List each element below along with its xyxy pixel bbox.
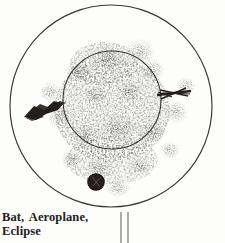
- inkblot-plate: [0, 0, 225, 243]
- figure-caption: Bat, Aeroplane, Eclipse: [2, 211, 120, 238]
- ink-speckle-field: [39, 38, 196, 197]
- illustration-page: Bat, Aeroplane, Eclipse: [0, 0, 225, 243]
- stem: [121, 212, 128, 243]
- caption-line-2: Eclipse: [2, 225, 120, 239]
- caption-line-1: Bat, Aeroplane,: [2, 211, 120, 225]
- eclipse-figure: [88, 174, 104, 190]
